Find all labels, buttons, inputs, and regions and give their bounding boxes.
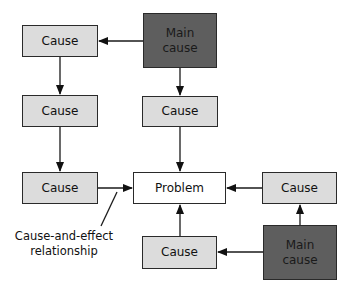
- cause-node-bottom: Cause: [142, 236, 217, 269]
- node-label: Cause: [162, 104, 199, 119]
- node-label: Cause: [281, 181, 318, 196]
- node-label: Cause: [161, 245, 198, 260]
- node-label: Cause: [42, 34, 79, 49]
- cause-node-left-1: Cause: [22, 25, 98, 57]
- cause-effect-diagram: Cause Main cause Cause Cause Cause Probl…: [0, 0, 353, 292]
- cause-node-left-3: Cause: [22, 172, 98, 204]
- cause-node-right: Cause: [262, 172, 337, 204]
- problem-node: Problem: [133, 172, 226, 204]
- node-label: Cause: [42, 104, 79, 119]
- cause-node-left-2: Cause: [22, 95, 98, 127]
- node-label: Main cause: [162, 26, 197, 56]
- main-cause-node-bottom: Main cause: [263, 225, 337, 280]
- cause-node-center-top: Cause: [142, 96, 218, 127]
- annotation-line-2: relationship: [8, 244, 120, 259]
- annotation-label: Cause-and-effect relationship: [8, 229, 120, 259]
- node-label: Main cause: [282, 238, 317, 268]
- annotation-pointer-line: [101, 192, 117, 226]
- node-label: Cause: [42, 181, 79, 196]
- node-label: Problem: [155, 181, 204, 196]
- annotation-line-1: Cause-and-effect: [8, 229, 120, 244]
- main-cause-node-top: Main cause: [143, 13, 217, 68]
